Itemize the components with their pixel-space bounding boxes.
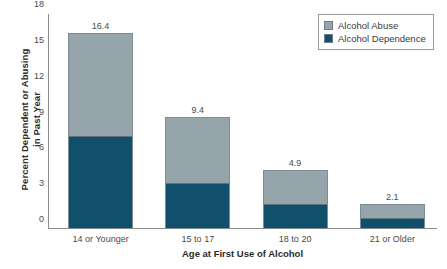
y-axis-tick-label: 15 — [34, 35, 44, 45]
bar-value-label: 4.9 — [263, 158, 328, 168]
stacked-bar[interactable] — [68, 33, 133, 229]
y-axis-tick-label: 9 — [39, 107, 44, 117]
bar-segment-alcohol-abuse[interactable] — [264, 171, 327, 203]
bar-segment-alcohol-abuse[interactable] — [166, 118, 229, 184]
x-axis-category-label: 18 to 20 — [249, 234, 342, 244]
y-axis-tick-label: 6 — [39, 142, 44, 152]
legend-item[interactable]: Alcohol Abuse — [324, 19, 426, 32]
y-axis-line — [48, 14, 49, 229]
bar-segment-alcohol-dependence[interactable] — [264, 204, 327, 228]
y-axis-title-line-1: Percent Dependent or Abusing — [19, 0, 31, 240]
legend-item[interactable]: Alcohol Dependence — [324, 32, 426, 45]
bar-group: 16.414 or Younger — [68, 14, 133, 229]
stacked-bar-chart: Percent Dependent or Abusing in Past Yea… — [0, 0, 447, 269]
y-axis-tick-label: 12 — [34, 71, 44, 81]
legend-color-swatch — [324, 21, 333, 30]
legend-color-swatch — [324, 34, 333, 43]
stacked-bar[interactable] — [165, 117, 230, 229]
bar-segment-alcohol-abuse[interactable] — [361, 205, 424, 218]
x-axis-category-label: 15 to 17 — [151, 234, 244, 244]
legend-item-label: Alcohol Abuse — [338, 20, 398, 31]
bar-segment-alcohol-abuse[interactable] — [69, 34, 132, 136]
bar-group: 9.415 to 17 — [165, 14, 230, 229]
bar-segment-alcohol-dependence[interactable] — [166, 183, 229, 228]
bar-segment-alcohol-dependence[interactable] — [361, 218, 424, 228]
chart-legend: Alcohol AbuseAlcohol Dependence — [318, 14, 434, 50]
bar-value-label: 9.4 — [165, 105, 230, 115]
bar-segment-alcohol-dependence[interactable] — [69, 136, 132, 228]
bar-value-label: 16.4 — [68, 21, 133, 31]
y-axis-tick-label: 18 — [34, 0, 44, 9]
stacked-bar[interactable] — [360, 204, 425, 229]
x-axis-category-label: 14 or Younger — [54, 234, 147, 244]
legend-item-label: Alcohol Dependence — [338, 33, 426, 44]
y-axis-tick-label: 0 — [39, 214, 44, 224]
bar-value-label: 2.1 — [360, 192, 425, 202]
stacked-bar[interactable] — [263, 170, 328, 229]
y-axis-tick-label: 3 — [39, 178, 44, 188]
x-axis-title: Age at First Use of Alcohol — [48, 248, 437, 259]
x-axis-category-label: 21 or Older — [346, 234, 439, 244]
